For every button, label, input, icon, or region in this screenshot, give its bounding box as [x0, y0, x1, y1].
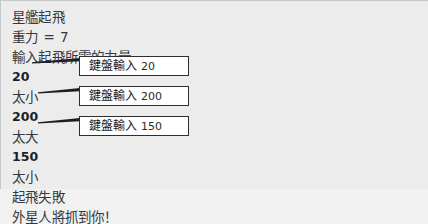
gravity-value: 7 [60, 29, 69, 45]
annotation-callout-3: 鍵盤輸入150 [79, 116, 189, 136]
user-input-value-3: 150 [12, 147, 312, 167]
annotation-label-1: 鍵盤輸入 [89, 59, 137, 73]
gravity-equals-sign: = [38, 29, 60, 45]
annotation-value-2: 200 [137, 90, 162, 103]
annotation-callout-1: 鍵盤輸入20 [79, 56, 189, 76]
leader-line-icon-2 [38, 88, 80, 98]
console-output-panel: 星艦起飛 重力=7 輸入起飛所需的力量 20 太小 200 太大 150 太小 … [0, 0, 428, 189]
leader-line-icon-1 [32, 58, 80, 68]
annotation-value-1: 20 [137, 60, 155, 73]
annotation-callout-2: 鍵盤輸入200 [79, 86, 189, 106]
program-title-line: 星艦起飛 [12, 7, 312, 27]
annotation-label-3: 鍵盤輸入 [89, 119, 137, 133]
annotation-label-2: 鍵盤輸入 [89, 89, 137, 103]
gravity-row: 重力=7 [12, 27, 69, 47]
annotation-value-3: 150 [137, 120, 162, 133]
gravity-label: 重力 [12, 29, 38, 45]
gravity-line: 重力=7 [12, 27, 312, 47]
result-line: 起飛失敗 [12, 187, 312, 189]
feedback-line-3: 太小 [12, 167, 312, 187]
leader-line-icon-3 [38, 118, 80, 128]
